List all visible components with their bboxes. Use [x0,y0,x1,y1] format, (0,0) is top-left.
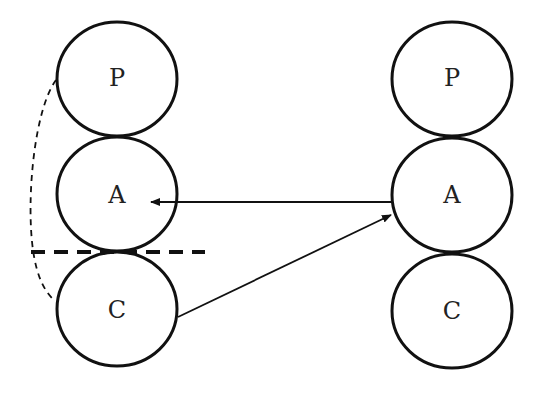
diagram-canvas: P A C P A C [0,0,537,393]
left-node-a-label: A [97,181,137,209]
arrow-left-c-to-right-a [178,215,391,317]
right-node-a-label: A [432,181,472,209]
left-node-c-label: C [97,296,137,324]
right-node-c-label: C [432,297,472,325]
dashed-curve-connector [31,80,56,301]
left-node-p-label: P [97,64,137,92]
right-node-p-label: P [432,64,472,92]
